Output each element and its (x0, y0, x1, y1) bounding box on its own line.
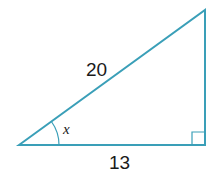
angle-label: x (62, 121, 70, 137)
triangle-shape (19, 10, 205, 145)
hypotenuse-label: 20 (86, 59, 107, 80)
angle-arc (51, 122, 59, 146)
right-angle-marker (192, 132, 205, 145)
triangle-diagram: 20 13 x (0, 0, 214, 174)
adjacent-side-label: 13 (109, 152, 130, 173)
